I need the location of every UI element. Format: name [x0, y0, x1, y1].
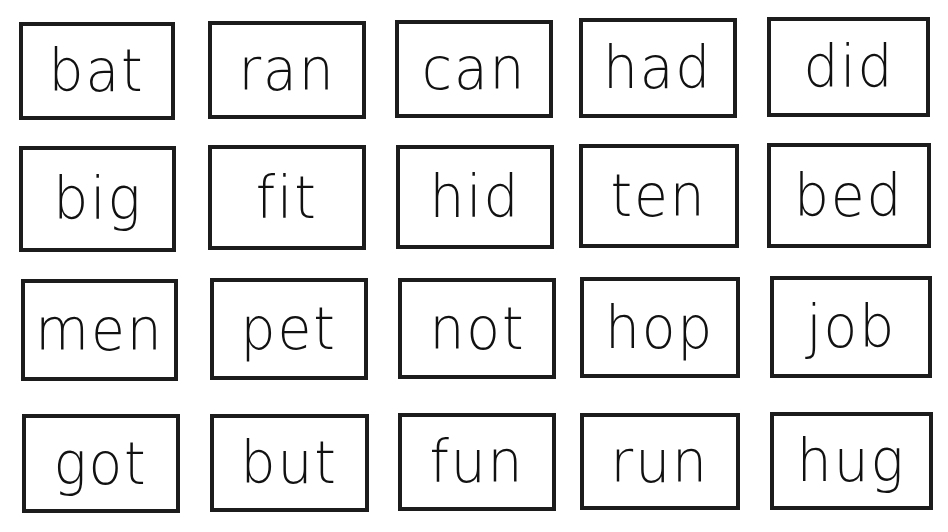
word-card: job — [770, 276, 932, 378]
card-word: ten — [611, 167, 707, 225]
card-word: did — [803, 38, 894, 96]
card-word: had — [603, 39, 712, 97]
word-card: bed — [767, 143, 931, 248]
word-card: hid — [396, 145, 554, 249]
card-word: can — [422, 40, 527, 98]
word-card: pet — [210, 278, 368, 380]
word-card: run — [580, 413, 740, 510]
card-word: but — [241, 434, 338, 492]
word-card: men — [21, 279, 178, 381]
card-word: pet — [241, 300, 337, 358]
card-word: big — [53, 170, 142, 228]
word-card: had — [579, 18, 737, 118]
word-card: hop — [580, 277, 740, 378]
word-card: ten — [579, 144, 739, 248]
word-card: bat — [19, 22, 175, 120]
word-card: but — [210, 414, 369, 512]
card-word: hop — [605, 299, 714, 357]
word-card: did — [767, 17, 930, 117]
card-word: bat — [49, 42, 145, 100]
word-card: fun — [398, 413, 556, 511]
card-word: not — [429, 300, 525, 358]
word-card: got — [22, 414, 180, 513]
word-card: can — [395, 20, 553, 118]
card-word: hug — [797, 432, 906, 490]
card-word: fit — [256, 169, 318, 227]
card-word: men — [35, 301, 163, 359]
card-word: got — [54, 435, 148, 493]
word-card: hug — [770, 412, 933, 510]
word-card: big — [19, 146, 176, 252]
word-card: fit — [208, 145, 366, 250]
card-word: hid — [430, 168, 521, 226]
word-card: not — [398, 278, 556, 379]
card-word: bed — [794, 167, 904, 225]
card-word: job — [806, 298, 896, 356]
card-word: ran — [238, 41, 335, 99]
card-word: fun — [430, 433, 525, 491]
card-word: run — [611, 433, 709, 491]
word-card: ran — [208, 21, 366, 119]
